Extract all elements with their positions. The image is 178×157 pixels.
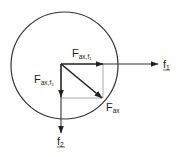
label-f1: f1 [163,58,170,71]
label-f-ax-f1: Fax,f₁ [72,47,92,60]
label-f2: f2 [57,135,64,148]
unit-circle [11,12,118,119]
label-f-ax: Fax [106,101,120,114]
f-ax-vector [61,64,102,98]
vector-diagram: Fax,f₁ Fax,f₂ Fax f1 f2 [0,0,178,157]
label-f-ax-f2: Fax,f₂ [34,73,54,86]
